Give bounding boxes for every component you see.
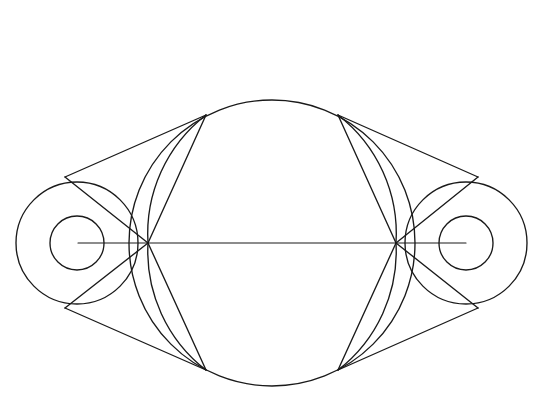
chord-right-lower-to-node — [396, 243, 478, 308]
crossed-belt-upper-left — [148, 115, 206, 243]
crossed-belt-upper-right — [338, 115, 396, 243]
outer-belt-upper-left — [65, 115, 206, 177]
drawing-canvas — [0, 0, 541, 413]
chord-right-upper-to-node — [396, 177, 478, 243]
crossed-belt-lower-left — [148, 243, 206, 370]
outer-belt-lower-left — [65, 308, 206, 370]
outer-belt-lower-right — [338, 308, 478, 370]
chord-left-upper-to-node — [65, 177, 148, 243]
geometric-figure — [0, 0, 541, 413]
crossed-belt-lower-right — [338, 243, 396, 370]
outer-belt-upper-right — [338, 115, 478, 177]
chord-left-lower-to-node — [65, 243, 148, 308]
